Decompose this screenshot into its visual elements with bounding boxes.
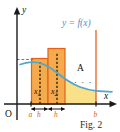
figure-container: y x O y = f(x) A · · · x1 x2 a b h h Fig… xyxy=(0,0,120,132)
figure-svg: y x O y = f(x) A · · · x1 x2 a b h h Fig… xyxy=(0,0,120,132)
width-measure-2-right-arrow xyxy=(61,107,65,111)
width-measure-2-left-arrow xyxy=(48,107,52,111)
y-axis-label: y xyxy=(21,5,27,15)
width-measure-1-right-arrow xyxy=(44,107,48,111)
area-ellipsis: · · · xyxy=(74,77,93,87)
x-axis-label: x xyxy=(103,91,109,101)
origin-label: O xyxy=(5,109,12,119)
sample-point-sub-2: 2 xyxy=(55,91,58,97)
area-label: A xyxy=(77,63,84,73)
function-label: y = f(x) xyxy=(61,18,91,29)
width-label-2: h xyxy=(54,110,58,119)
boundary-label-b: b xyxy=(94,110,98,119)
x-axis-arrowhead xyxy=(110,101,118,108)
sample-point-sub-1: 1 xyxy=(38,91,41,97)
boundary-label-a: a xyxy=(29,110,33,119)
figure-caption: Fig. 2 xyxy=(80,120,102,130)
width-label-1: h xyxy=(37,110,41,119)
y-axis-arrowhead xyxy=(14,7,21,15)
